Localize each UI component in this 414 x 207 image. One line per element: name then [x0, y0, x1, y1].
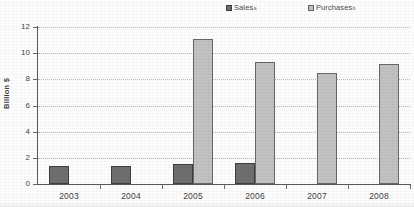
legend-item-purchases: Purchases b [308, 1, 356, 15]
y-axis-tick-label: 2 [4, 154, 30, 162]
x-axis-tick [410, 185, 411, 189]
legend-swatch-sales-icon [226, 5, 232, 11]
bar-purchases-2007 [317, 73, 337, 184]
chart-legend: Sales a Purchases b [0, 1, 414, 17]
x-axis-label-2003: 2003 [38, 191, 100, 201]
x-axis-tick [162, 185, 163, 189]
x-axis-tick [286, 185, 287, 189]
legend-footnote-marker-sales: a [254, 6, 257, 11]
gridline [38, 106, 410, 107]
y-axis-tick-label: 0 [4, 180, 30, 188]
y-axis-tick-label: 8 [4, 75, 30, 83]
gridline [38, 132, 410, 133]
x-axis-tick [348, 185, 349, 189]
x-axis-label-2007: 2007 [286, 191, 348, 201]
bar-purchases-2005 [193, 39, 213, 184]
legend-item-sales: Sales a [226, 1, 257, 15]
x-axis-tick [224, 185, 225, 189]
x-axis-tick [100, 185, 101, 189]
gridline [38, 53, 410, 54]
y-axis-line [37, 26, 38, 185]
y-axis-tick-label: 4 [4, 128, 30, 136]
legend-footnote-marker-purchases: b [353, 6, 356, 11]
legend-swatch-purchases-icon [308, 5, 314, 11]
x-axis-label-2004: 2004 [100, 191, 162, 201]
bar-chart: Sales a Purchases b Billion $ 024681012 … [0, 0, 414, 207]
x-axis-label-2008: 2008 [348, 191, 410, 201]
bar-purchases-2006 [255, 62, 275, 184]
legend-label-sales: Sales [234, 4, 253, 12]
x-axis-label-2005: 2005 [162, 191, 224, 201]
gridline [38, 27, 410, 28]
bar-sales-2005 [173, 164, 193, 184]
y-axis-tick-label: 10 [4, 49, 30, 57]
scan-edge-smudge [0, 202, 414, 207]
gridline [38, 158, 410, 159]
bar-sales-2004 [111, 166, 131, 184]
legend-label-purchases: Purchases [316, 4, 352, 12]
y-axis-tick-label: 12 [4, 23, 30, 31]
y-axis-tick-label: 6 [4, 102, 30, 110]
gridline [38, 79, 410, 80]
bar-sales-2003 [49, 166, 69, 184]
x-axis-label-2006: 2006 [224, 191, 286, 201]
bar-sales-2006 [235, 163, 255, 184]
bar-purchases-2008 [379, 64, 399, 184]
